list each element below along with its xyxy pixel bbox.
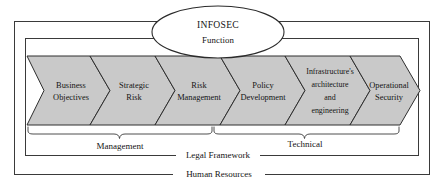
label-operational-security-line1: Operational [369,81,409,90]
infosec-function-diagram: Business Objectives Strategic Risk Risk … [0,0,444,191]
label-infrastructure-line1: Infrastructure's [306,67,353,76]
label-business-objectives-line2: Objectives [53,93,89,102]
label-operational-security-line2: Security [375,93,404,102]
infosec-subtitle: Function [202,35,235,45]
label-policy-development-line2: Development [240,93,286,102]
frame-label-human-resources: Human Resources [186,169,252,179]
infosec-ellipse[interactable] [152,6,284,58]
diagram-canvas: Business Objectives Strategic Risk Risk … [0,0,444,191]
label-risk-management-line1: Risk [191,81,207,90]
brace-management [28,127,212,139]
frame-label-legal-framework: Legal Framework [186,150,251,160]
group-label-technical: Technical [288,139,323,149]
brace-technical [214,127,399,139]
label-risk-management-line2: Management [177,93,221,102]
infosec-title: INFOSEC [197,19,239,30]
label-infrastructure-line3: and [324,93,335,102]
chevron-band [27,56,420,125]
group-label-management: Management [97,141,144,151]
grouping-braces [28,127,399,139]
label-infrastructure-line4: engineering [311,106,348,115]
label-strategic-risk-line1: Strategic [119,81,149,90]
infosec-function-node[interactable]: INFOSEC Function [152,6,284,58]
label-policy-development-line1: Policy [252,81,274,90]
label-strategic-risk-line2: Risk [126,93,142,102]
label-infrastructure-line2: architecture [311,80,349,89]
label-business-objectives-line1: Business [56,81,86,90]
